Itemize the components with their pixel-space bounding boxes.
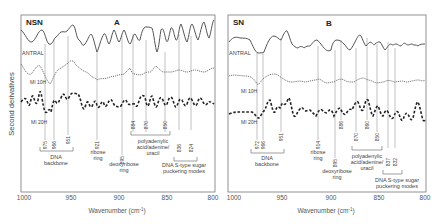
panel-a-x-ticks: 1000 950 900 850 800	[17, 194, 219, 201]
panel-b-letter: B	[326, 19, 332, 28]
panel-b-mi10h-line	[229, 74, 425, 84]
peak-label: 824	[188, 144, 194, 153]
peak-label: 832	[392, 158, 398, 167]
x-tick: 950	[277, 194, 288, 201]
peak-label: 886	[338, 121, 344, 130]
x-tick: 800	[208, 194, 219, 201]
panel-b-series-label-antral: ANTRAL	[229, 50, 251, 56]
x-tick: 950	[66, 194, 77, 201]
panel-b-x-axis-label: Wavenumber (cm-1)	[297, 207, 354, 216]
peak-label: 966	[260, 141, 266, 150]
panel-b-mi20h-line	[229, 98, 425, 121]
figure: Second derivatives NSN A ANTRAL MI 10H M…	[0, 0, 446, 224]
panel-b-series-label-mi20h: MI 20H	[241, 119, 258, 125]
group-label-polyadenylic: uracil	[360, 165, 373, 171]
peak-label: 836	[176, 144, 182, 153]
peak-label: 966	[51, 141, 57, 150]
peak-label: 837	[385, 158, 391, 167]
panel-b-group-label: SN	[233, 18, 244, 27]
panel-a-series-label-antral: ANTRAL	[22, 50, 44, 56]
group-label-ribose: ring	[93, 155, 102, 161]
peak-label: 884	[130, 121, 136, 130]
panel-b-group-labels: DNA backbone ribose ring deoxyribose rin…	[255, 149, 419, 189]
peak-label: 850	[374, 133, 380, 142]
group-label-ribose: ring	[313, 155, 322, 161]
panel-a-series-label-mi20h: MI 20H	[31, 119, 48, 125]
peak-label: 975	[42, 141, 48, 150]
x-tick: 850	[374, 194, 385, 201]
panel-a-series-label-mi10h: MI 10H	[30, 79, 47, 85]
panel-a-group-label: NSN	[26, 18, 43, 27]
x-tick: 850	[162, 194, 173, 201]
peak-label: 850	[162, 121, 168, 130]
group-label-dna-backbone: backbone	[255, 161, 279, 167]
peak-label: 951	[65, 136, 71, 145]
panel-b-antral-line	[229, 31, 425, 53]
x-tick: 800	[420, 194, 431, 201]
panel-b-series-label-mi10h: MI 10H	[241, 88, 258, 94]
peak-label: 870	[143, 121, 149, 130]
x-tick: 900	[114, 194, 125, 201]
group-label-s-type: puckering modes	[376, 183, 418, 189]
y-axis-label: Second derivatives	[7, 72, 16, 136]
panel-a-letter: A	[114, 18, 120, 27]
group-label-s-type: puckering modes	[163, 168, 205, 174]
group-label-deoxyribose: ring	[119, 167, 128, 173]
peak-label: 951	[278, 133, 284, 142]
panel-a: NSN A ANTRAL MI 10H MI 20H 975 966 9	[17, 15, 219, 215]
panel-a-mi10h-line	[21, 61, 214, 84]
panel-a-x-axis-label: Wavenumber (cm-1)	[88, 207, 145, 216]
peak-label: 870	[353, 133, 359, 142]
panel-a-mi20h-line	[21, 91, 214, 112]
peak-label: 860	[364, 121, 370, 130]
panel-b-x-ticks: 1000 950 900 850 800	[227, 194, 431, 201]
peak-label: 895	[332, 159, 338, 168]
x-tick: 900	[326, 194, 337, 201]
panel-b: SN B ANTRAL MI 10H MI 20H 972 966 951	[227, 15, 431, 215]
group-label-polyadenylic: uracil	[146, 150, 159, 156]
panel-a-peak-labels: 975 966 951 921 895 884 870 850 836 824	[42, 121, 194, 165]
group-label-dna-backbone: backbone	[44, 160, 68, 166]
x-tick: 1000	[227, 194, 242, 201]
x-tick: 1000	[17, 194, 32, 201]
group-label-deoxyribose: ring	[332, 174, 341, 180]
